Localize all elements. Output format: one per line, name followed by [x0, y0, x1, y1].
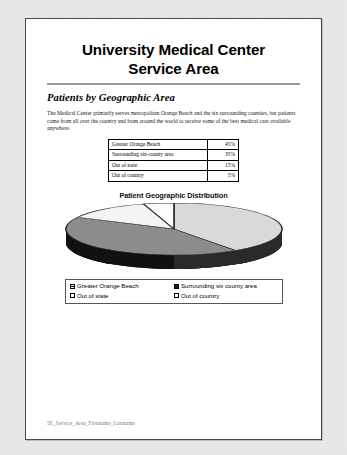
- page-title-line-2: Service Area: [47, 60, 300, 79]
- white-swatch-icon: [70, 293, 75, 298]
- table-cell-value: 15%: [208, 160, 239, 170]
- table-row: Surrounding six-county area 35%: [109, 150, 239, 160]
- table-cell-label: Surrounding six-county area: [109, 150, 208, 160]
- pie-chart: [47, 203, 300, 275]
- section-heading: Patients by Geographic Area: [47, 92, 300, 103]
- legend-label: Out of country: [181, 292, 219, 300]
- table-row: Out of country 5%: [109, 171, 239, 181]
- body-paragraph: The Medical Center primarily serves metr…: [47, 110, 300, 133]
- legend-label: Surrounding six county area: [181, 282, 257, 290]
- page-title-line-1: University Medical Center: [82, 41, 265, 58]
- legend-item-greater-orange-beach: Greater Orange Beach: [70, 282, 174, 290]
- chart-legend: Greater Orange Beach Surrounding six cou…: [65, 279, 283, 304]
- page-footer: 5E_Service_Area_Firstname_Lastname: [47, 420, 135, 426]
- hatch-swatch-icon: [70, 284, 75, 289]
- data-table-container: Greater Orange Beach 45% Surrounding six…: [47, 139, 300, 182]
- table-cell-value: 45%: [208, 139, 239, 149]
- legend-item-out-of-state: Out of state: [70, 292, 174, 300]
- legend-item-out-of-country: Out of country: [174, 292, 278, 300]
- geographic-data-table: Greater Orange Beach 45% Surrounding six…: [108, 139, 239, 182]
- pie-chart-svg: [58, 203, 290, 275]
- table-cell-value: 5%: [208, 171, 239, 181]
- page-title: University Medical Center Service Area: [47, 41, 300, 78]
- legend-label: Out of state: [77, 292, 109, 300]
- table-cell-value: 35%: [208, 150, 239, 160]
- document-page: University Medical Center Service Area P…: [25, 18, 322, 440]
- solid-dark-swatch-icon: [174, 284, 179, 289]
- title-divider: [47, 83, 300, 85]
- table-cell-label: Out of country: [109, 171, 208, 181]
- table-row: Out of state 15%: [109, 160, 239, 170]
- pie-top-surface: [65, 203, 281, 255]
- table-row: Greater Orange Beach 45%: [109, 139, 239, 149]
- white-swatch-icon: [174, 293, 179, 298]
- chart-block: Patient Geographic Distribution: [47, 191, 300, 304]
- table-cell-label: Out of state: [109, 160, 208, 170]
- legend-label: Greater Orange Beach: [77, 282, 139, 290]
- page-content-area: University Medical Center Service Area P…: [47, 41, 300, 429]
- legend-item-surrounding-six-county-area: Surrounding six county area: [174, 282, 278, 290]
- table-cell-label: Greater Orange Beach: [109, 139, 208, 149]
- chart-title: Patient Geographic Distribution: [47, 191, 300, 200]
